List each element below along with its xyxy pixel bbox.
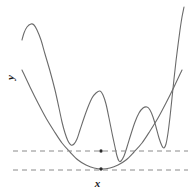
curve-convex-parabola-envelope bbox=[22, 70, 182, 169]
figure-container: y x bbox=[0, 0, 195, 193]
curve-series-group bbox=[22, 7, 184, 169]
global-minimum-marker bbox=[99, 149, 102, 152]
parabola-vertex-marker bbox=[99, 167, 102, 170]
reference-lines-group bbox=[13, 151, 188, 170]
curve-multimodal-objective bbox=[22, 7, 184, 162]
data-point-markers-group bbox=[99, 149, 102, 170]
y-axis-label: y bbox=[5, 75, 16, 80]
x-axis-label: x bbox=[0, 178, 195, 189]
function-plot bbox=[0, 0, 195, 193]
